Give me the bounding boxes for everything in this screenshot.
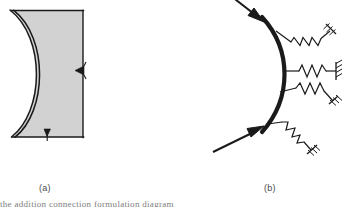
spring-4 <box>268 122 320 156</box>
panel-b-group <box>213 0 342 156</box>
clipped-bottom-text-line: the addition connection formulation diag… <box>0 200 346 207</box>
clipped-bottom-text: the addition connection formulation diag… <box>0 200 346 207</box>
spring-3 <box>280 83 342 106</box>
spring-3-support <box>329 95 342 106</box>
spring-2-support <box>336 60 342 80</box>
panel-a-body-fill <box>11 11 83 137</box>
spring-4-support <box>307 145 320 156</box>
panel-a-group <box>10 10 86 141</box>
figure-drawing <box>0 0 346 207</box>
figure-root: (a) (b) the addition connection formulat… <box>0 0 346 207</box>
panel-b-caption: (b) <box>264 183 276 193</box>
spring-2 <box>283 60 342 80</box>
spring-1 <box>276 24 336 46</box>
spring-1-support <box>324 24 337 36</box>
upper-load-arrow <box>231 0 264 22</box>
lower-load-arrow <box>213 126 264 152</box>
panel-a-caption: (a) <box>39 183 51 193</box>
